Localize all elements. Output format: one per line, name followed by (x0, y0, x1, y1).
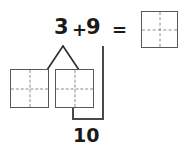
make-ten-bracket-icon (68, 44, 110, 124)
equation-addend-b: 9 (86, 17, 101, 38)
worksheet-canvas: 3 + 9 = 10 (0, 0, 192, 155)
part-cell-left[interactable] (10, 69, 49, 108)
equals-operator: = (112, 19, 127, 40)
bracket-total-label: 10 (73, 126, 99, 145)
answer-cell[interactable] (141, 11, 178, 48)
plus-operator: + (72, 19, 87, 40)
horizontal-dashed-divider-icon (142, 29, 177, 30)
equation-addend-a: 3 (54, 17, 69, 38)
horizontal-dashed-divider-icon (11, 88, 48, 89)
